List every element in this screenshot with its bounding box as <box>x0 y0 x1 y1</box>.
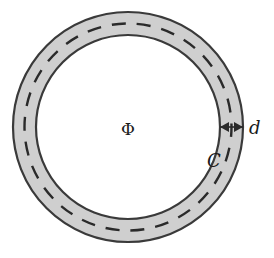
toroid-diagram: Φ d C <box>0 0 274 258</box>
flux-label: Φ <box>121 119 135 139</box>
thickness-label: d <box>249 117 261 138</box>
contour-label: C <box>207 150 221 171</box>
